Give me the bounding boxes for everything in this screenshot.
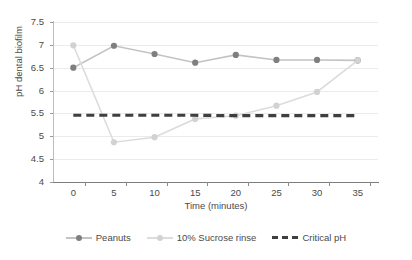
legend-item[interactable]: 10% Sucrose rinse	[147, 232, 257, 243]
x-axis-tick-label: 15	[180, 187, 210, 198]
legend-label: Peanuts	[96, 232, 131, 243]
legend-swatch-icon	[147, 233, 173, 243]
legend-label: 10% Sucrose rinse	[177, 232, 257, 243]
legend-item[interactable]: Critical pH	[272, 232, 346, 243]
data-point	[151, 51, 157, 57]
y-axis-tick-label: 5.5	[0, 108, 44, 118]
x-axis-tick	[85, 182, 86, 186]
data-point	[355, 57, 361, 63]
legend-swatch-icon	[272, 233, 298, 243]
chart-legend: Peanuts10% Sucrose rinseCritical pH	[0, 232, 412, 243]
y-axis-tick-label: 4.5	[0, 154, 44, 164]
data-point	[70, 65, 76, 71]
data-point	[273, 103, 279, 109]
x-axis-title: Time (minutes)	[53, 200, 379, 211]
x-axis-tick-label: 0	[58, 187, 88, 198]
x-axis-tick	[126, 182, 127, 186]
data-point	[314, 89, 320, 95]
data-point	[233, 52, 239, 58]
legend-label: Critical pH	[302, 232, 346, 243]
x-axis-tick	[370, 182, 371, 186]
x-axis-tick-label: 25	[261, 187, 291, 198]
y-axis-tick-label: 7	[0, 40, 44, 50]
data-point	[111, 43, 117, 49]
x-axis-tick-label: 20	[221, 187, 251, 198]
x-axis-line	[53, 182, 379, 183]
y-axis-tick-label: 6.5	[0, 63, 44, 73]
x-axis-tick-label: 5	[99, 187, 129, 198]
legend-swatch-icon	[66, 233, 92, 243]
data-point	[70, 42, 76, 48]
x-axis-tick	[167, 182, 168, 186]
series-line	[73, 46, 357, 68]
data-point	[192, 60, 198, 66]
x-axis-tick	[329, 182, 330, 186]
x-axis-tick	[288, 182, 289, 186]
series-layer	[53, 22, 378, 182]
legend-item[interactable]: Peanuts	[66, 232, 131, 243]
x-axis-tick	[207, 182, 208, 186]
data-point	[111, 139, 117, 145]
chart-container: pH dental biofilm 44.555.566.577.5 05101…	[0, 0, 412, 260]
y-axis-tick-label: 7.5	[0, 17, 44, 27]
data-point	[151, 134, 157, 140]
x-axis-tick	[248, 182, 249, 186]
y-axis-tick-label: 5	[0, 131, 44, 141]
x-axis-tick-label: 10	[140, 187, 170, 198]
x-axis-tick-label: 35	[343, 187, 373, 198]
y-axis-tick-label: 4	[0, 177, 44, 187]
x-axis-tick-label: 30	[302, 187, 332, 198]
data-point	[273, 57, 279, 63]
data-point	[314, 57, 320, 63]
plot-area	[53, 22, 378, 182]
y-axis-tick-label: 6	[0, 86, 44, 96]
y-axis-line	[53, 21, 54, 183]
